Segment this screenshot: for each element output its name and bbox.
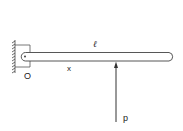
position-label: x	[67, 64, 71, 73]
pin-joint	[24, 56, 26, 58]
length-label: ℓ	[93, 39, 97, 49]
load-label: p	[123, 113, 128, 123]
cantilever-diagram: ℓ x O p	[0, 0, 183, 131]
origin-label: O	[24, 71, 31, 81]
load-arrow	[114, 62, 118, 123]
fixed-wall	[12, 40, 15, 73]
beam	[21, 53, 172, 62]
